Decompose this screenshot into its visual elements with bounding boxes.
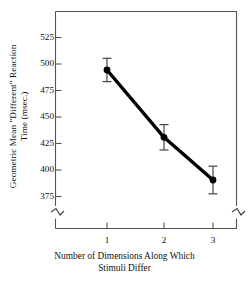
x-tick-label: 1 (105, 236, 110, 245)
x-tick-label: 2 (162, 236, 167, 245)
chart-figure: Geometric Mean "Different" Reaction Time… (0, 0, 249, 282)
x-tick-label: 3 (211, 236, 216, 245)
x-axis-tick-labels: 1 2 3 (0, 0, 249, 282)
x-axis-label-line-1: Number of Dimensions Along Which (0, 250, 249, 262)
x-axis-label-line-2: Stimuli Differ (0, 262, 249, 274)
x-axis-label: Number of Dimensions Along Which Stimuli… (0, 250, 249, 274)
